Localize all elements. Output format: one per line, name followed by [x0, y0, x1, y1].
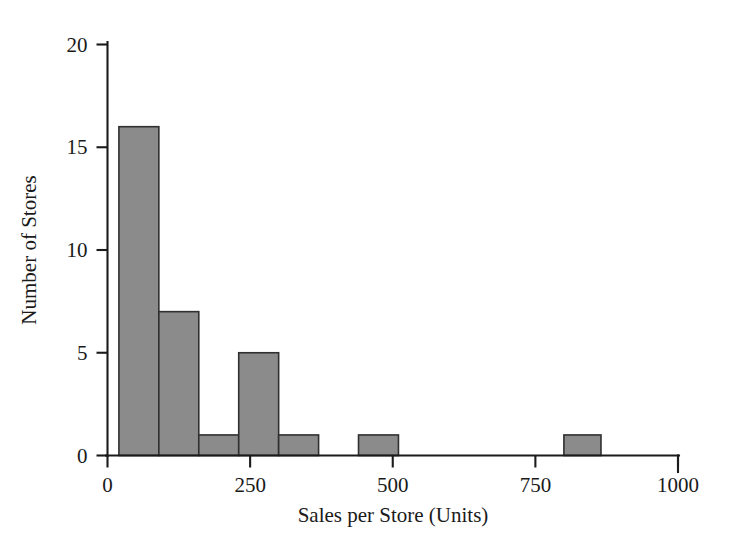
x-tick-label: 1000	[657, 473, 699, 497]
y-tick-label: 10	[67, 238, 88, 262]
y-axis-title: Number of Stores	[17, 175, 41, 324]
histogram-plot: 05101520 02505007501000 Number of Stores…	[0, 0, 730, 549]
histogram-bar	[159, 312, 199, 456]
y-tick-label: 15	[67, 135, 88, 159]
histogram-bar	[199, 435, 239, 456]
y-tick-label: 5	[77, 341, 88, 365]
x-tick-label: 250	[234, 473, 266, 497]
histogram-bar	[359, 435, 399, 456]
y-ticks-group: 05101520	[67, 33, 108, 468]
histogram-bar	[239, 353, 279, 456]
x-tick-label: 750	[520, 473, 552, 497]
bars-group	[119, 127, 601, 456]
y-tick-label: 20	[67, 33, 88, 57]
histogram-bar	[279, 435, 319, 456]
histogram-bar	[119, 127, 159, 456]
histogram-figure: 05101520 02505007501000 Number of Stores…	[0, 0, 730, 549]
x-tick-label: 500	[377, 473, 409, 497]
x-axis-title: Sales per Store (Units)	[298, 503, 489, 527]
histogram-bar	[564, 435, 601, 456]
x-ticks-group: 02505007501000	[102, 456, 699, 497]
x-tick-label: 0	[102, 473, 113, 497]
y-tick-label: 0	[77, 444, 88, 468]
